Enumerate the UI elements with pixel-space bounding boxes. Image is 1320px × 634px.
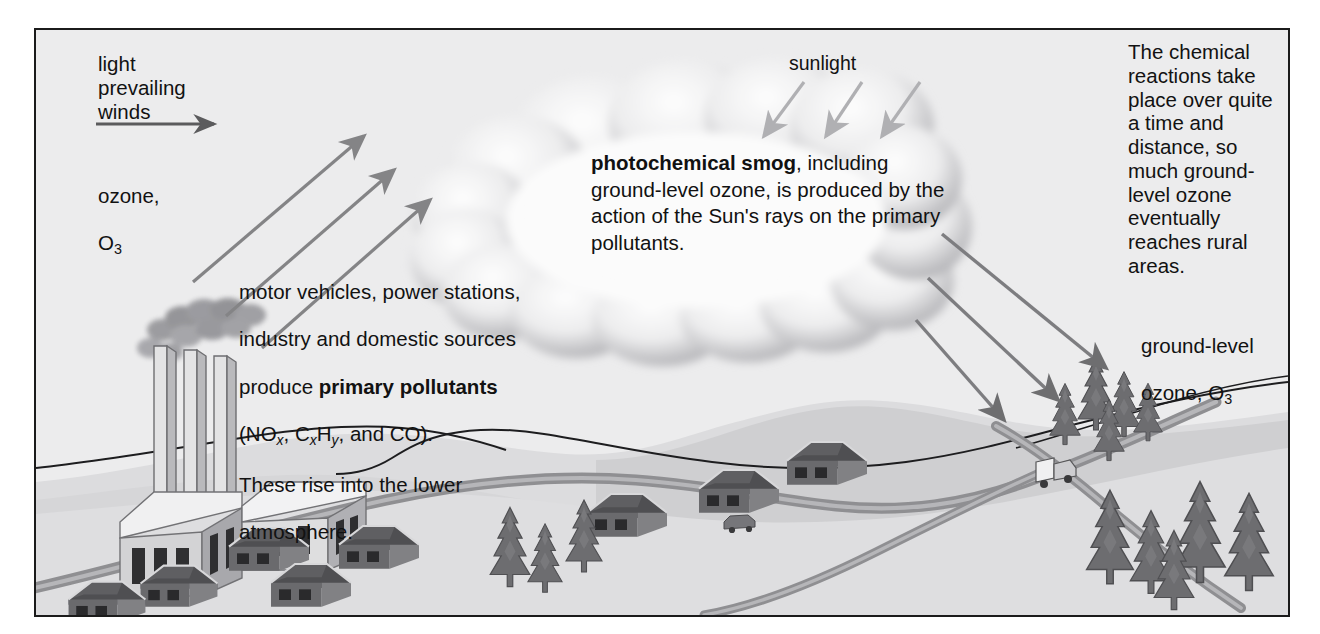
- label-ozone-line1: ozone,: [98, 184, 160, 207]
- diagram-stage: light prevailing winds ozone, O3 motor v…: [0, 0, 1320, 634]
- sources-line-4-formula: (NOx, CxHy, and CO).: [239, 422, 433, 445]
- sources-line-6: atmosphere.: [239, 520, 353, 543]
- label-primary-sources: motor vehicles, power stations, industry…: [239, 256, 520, 544]
- cloud-caption-bold: photochemical smog: [591, 151, 796, 174]
- sources-line-2: industry and domestic sources: [239, 327, 516, 350]
- sources-line-3: produce primary pollutants: [239, 375, 498, 398]
- diagram-frame: light prevailing winds ozone, O3 motor v…: [34, 28, 1290, 617]
- label-right-explanation: The chemical reactions take place over q…: [1128, 40, 1273, 278]
- sources-bold-primary-pollutants: primary pollutants: [319, 375, 498, 398]
- label-ozone: ozone, O3: [98, 160, 160, 258]
- sources-line-1: motor vehicles, power stations,: [239, 280, 520, 303]
- label-ozone-symbol: O3: [98, 231, 122, 254]
- cloud-caption: photochemical smog, including ground-lev…: [591, 150, 951, 257]
- glozone-line2: ozone, O3: [1141, 381, 1232, 404]
- sources-line-5: These rise into the lower: [239, 473, 462, 496]
- label-sunlight: sunlight: [789, 52, 856, 75]
- scene-illustration: [36, 30, 1288, 615]
- label-prevailing-winds: light prevailing winds: [98, 52, 186, 123]
- label-ground-level-ozone: ground-level ozone, O3: [1141, 310, 1254, 408]
- glozone-line1: ground-level: [1141, 334, 1254, 357]
